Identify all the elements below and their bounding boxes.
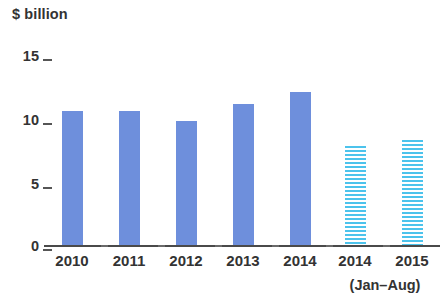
- y-axis-tick-15: 15: [0, 48, 52, 64]
- plot-area: 15 10 5 0 2010 2011: [0, 0, 442, 301]
- y-axis-tick-dash-0: [43, 249, 52, 251]
- y-axis-tick-label-5: 5: [31, 176, 39, 192]
- bar-2010: [62, 111, 83, 245]
- bar-chart: $ billion 15 10 5 0: [0, 0, 442, 301]
- x-axis-tick-5: [326, 245, 333, 247]
- x-axis-label-2015-jan-aug: 2015: [377, 252, 442, 269]
- x-axis-tick-6: [383, 245, 390, 247]
- y-axis-tick-label-10: 10: [23, 112, 39, 128]
- y-axis-tick-5: 5: [0, 176, 52, 192]
- y-axis-tick-10: 10: [0, 112, 52, 128]
- y-axis-tick-dash-5: [43, 187, 52, 189]
- x-axis-tick-1: [101, 245, 108, 247]
- bar-2015-jan-aug: [402, 140, 423, 245]
- x-axis-tick-4: [272, 245, 279, 247]
- y-axis-tick-label-15: 15: [23, 48, 39, 64]
- bar-2014-jan-aug: [345, 146, 366, 245]
- bar-2013: [233, 104, 254, 245]
- x-axis-tick-3: [215, 245, 222, 247]
- x-axis-tick-2: [158, 245, 165, 247]
- bar-2014: [290, 92, 311, 245]
- period-note-jan-aug: (Jan–Aug): [325, 277, 442, 293]
- y-axis-tick-dash-10: [43, 123, 52, 125]
- bar-2012: [176, 121, 197, 245]
- bar-2011: [119, 111, 140, 245]
- y-axis-tick-dash-15: [43, 59, 52, 61]
